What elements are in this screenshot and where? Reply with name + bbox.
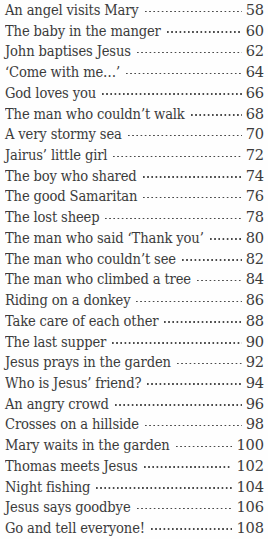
toc-entry[interactable]: Jairus’ little girl72 bbox=[0, 145, 268, 166]
toc-entry-title: The man who couldn’t see bbox=[5, 249, 176, 270]
toc-entry-page-number: 94 bbox=[246, 373, 264, 394]
toc-entry-title: Who is Jesus’ friend? bbox=[5, 373, 141, 394]
toc-entry[interactable]: Who is Jesus’ friend?94 bbox=[0, 373, 268, 394]
toc-entry[interactable]: Jesus says goodbye106 bbox=[0, 497, 268, 518]
toc-entry-page-number: 86 bbox=[246, 290, 264, 311]
toc-entry-title: Jairus’ little girl bbox=[5, 145, 107, 166]
toc-entry-page-number: 104 bbox=[236, 477, 264, 498]
toc-entry[interactable]: Riding on a donkey86 bbox=[0, 290, 268, 311]
toc-entry-page-number: 106 bbox=[236, 497, 264, 518]
toc-entry-title: A very stormy sea bbox=[5, 124, 122, 145]
toc-entry[interactable]: Mary waits in the garden100 bbox=[0, 435, 268, 456]
dot-leader bbox=[137, 498, 233, 512]
dot-leader bbox=[210, 229, 242, 243]
dot-leader bbox=[102, 84, 242, 98]
toc-entry-title: The good Samaritan bbox=[5, 186, 137, 207]
toc-entry[interactable]: ‘Come with me…’64 bbox=[0, 62, 268, 83]
toc-entry[interactable]: Go and tell everyone!108 bbox=[0, 518, 268, 539]
toc-entry-title: Night fishing bbox=[5, 477, 90, 498]
dot-leader bbox=[151, 519, 233, 533]
dot-leader bbox=[113, 146, 241, 160]
toc-entry[interactable]: Night fishing104 bbox=[0, 477, 268, 498]
toc-entry[interactable]: Thomas meets Jesus102 bbox=[0, 456, 268, 477]
toc-entry[interactable]: The good Samaritan76 bbox=[0, 186, 268, 207]
dot-leader bbox=[191, 105, 242, 119]
toc-entry-page-number: 76 bbox=[246, 186, 264, 207]
toc-entry[interactable]: God loves you66 bbox=[0, 83, 268, 104]
toc-entry-title: Riding on a donkey bbox=[5, 290, 130, 311]
toc-entry-page-number: 102 bbox=[236, 456, 264, 477]
toc-entry[interactable]: The baby in the manger60 bbox=[0, 21, 268, 42]
toc-entry-page-number: 78 bbox=[246, 207, 264, 228]
dot-leader bbox=[96, 478, 232, 492]
toc-entry[interactable]: The last supper90 bbox=[0, 332, 268, 353]
toc-entry[interactable]: The man who said ‘Thank you’80 bbox=[0, 228, 268, 249]
dot-leader bbox=[115, 395, 242, 409]
toc-entry-title: An angel visits Mary bbox=[5, 0, 139, 21]
toc-entry-title: The man who climbed a tree bbox=[5, 269, 191, 290]
toc-entry-title: The man who said ‘Thank you’ bbox=[5, 228, 204, 249]
dot-leader bbox=[197, 270, 242, 284]
dot-leader bbox=[126, 63, 242, 77]
toc-entry-title: An angry crowd bbox=[5, 394, 109, 415]
toc-entry[interactable]: A very stormy sea70 bbox=[0, 124, 268, 145]
toc-entry-title: Go and tell everyone! bbox=[5, 518, 145, 539]
toc-entry-title: The baby in the manger bbox=[5, 21, 161, 42]
toc-entry[interactable]: John baptises Jesus62 bbox=[0, 41, 268, 62]
toc-entry-title: ‘Come with me…’ bbox=[5, 62, 120, 83]
toc-entry-page-number: 72 bbox=[246, 145, 264, 166]
dot-leader bbox=[145, 415, 242, 429]
toc-entry[interactable]: The man who couldn’t walk68 bbox=[0, 104, 268, 125]
toc-entry-title: The man who couldn’t walk bbox=[5, 104, 185, 125]
dot-leader bbox=[112, 333, 241, 347]
toc-entry-title: Jesus says goodbye bbox=[5, 497, 131, 518]
toc-entry-title: God loves you bbox=[5, 83, 96, 104]
toc-entry-title: John baptises Jesus bbox=[5, 41, 131, 62]
toc-entry-page-number: 92 bbox=[246, 352, 264, 373]
toc-entry[interactable]: The boy who shared74 bbox=[0, 166, 268, 187]
toc-entry-page-number: 100 bbox=[236, 435, 264, 456]
dot-leader bbox=[105, 208, 241, 222]
toc-entry[interactable]: The man who climbed a tree84 bbox=[0, 269, 268, 290]
dot-leader bbox=[144, 457, 233, 471]
toc-entry[interactable]: The lost sheep78 bbox=[0, 207, 268, 228]
dot-leader bbox=[137, 42, 242, 56]
dot-leader bbox=[164, 312, 241, 326]
toc-entry-title: The boy who shared bbox=[5, 166, 137, 187]
dot-leader bbox=[143, 187, 241, 201]
toc-entry-page-number: 62 bbox=[246, 41, 264, 62]
toc-entry[interactable]: The man who couldn’t see82 bbox=[0, 249, 268, 270]
dot-leader bbox=[182, 250, 242, 264]
toc-entry-title: Thomas meets Jesus bbox=[5, 456, 138, 477]
dot-leader bbox=[145, 1, 242, 15]
toc-entry-page-number: 68 bbox=[246, 104, 264, 125]
toc-entry-page-number: 60 bbox=[246, 21, 264, 42]
toc-entry-page-number: 88 bbox=[246, 311, 264, 332]
toc-entry-page-number: 74 bbox=[246, 166, 264, 187]
table-of-contents: An angel visits Mary58The baby in the ma… bbox=[0, 0, 268, 539]
dot-leader bbox=[177, 353, 242, 367]
toc-entry-page-number: 80 bbox=[246, 228, 264, 249]
dot-leader bbox=[143, 167, 242, 181]
toc-entry-title: Jesus prays in the garden bbox=[5, 352, 171, 373]
toc-entry-title: Mary waits in the garden bbox=[5, 435, 170, 456]
toc-entry-page-number: 64 bbox=[246, 62, 264, 83]
toc-entry-page-number: 96 bbox=[246, 394, 264, 415]
toc-entry-title: The last supper bbox=[5, 332, 106, 353]
toc-entry[interactable]: Take care of each other88 bbox=[0, 311, 268, 332]
toc-entry-page-number: 108 bbox=[236, 518, 264, 539]
toc-entry[interactable]: Jesus prays in the garden92 bbox=[0, 352, 268, 373]
toc-entry[interactable]: Crosses on a hillside98 bbox=[0, 414, 268, 435]
toc-entry-page-number: 84 bbox=[246, 269, 264, 290]
toc-entry[interactable]: An angry crowd96 bbox=[0, 394, 268, 415]
toc-entry-page-number: 58 bbox=[246, 0, 264, 21]
toc-entry-title: Crosses on a hillside bbox=[5, 414, 139, 435]
toc-entry-page-number: 90 bbox=[246, 332, 264, 353]
dot-leader bbox=[176, 436, 233, 450]
toc-entry-page-number: 70 bbox=[246, 124, 264, 145]
toc-entry[interactable]: An angel visits Mary58 bbox=[0, 0, 268, 21]
toc-entry-page-number: 66 bbox=[246, 83, 264, 104]
dot-leader bbox=[167, 22, 242, 36]
toc-entry-title: The lost sheep bbox=[5, 207, 99, 228]
toc-entry-page-number: 82 bbox=[246, 249, 264, 270]
